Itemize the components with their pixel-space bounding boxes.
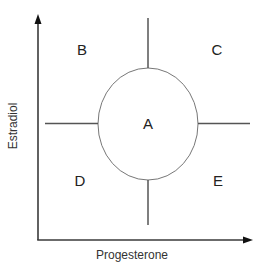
x-axis-label: Progesterone xyxy=(96,248,168,262)
region-label-b: B xyxy=(77,41,87,58)
y-axis-label: Estradiol xyxy=(6,103,20,150)
x-axis-arrowhead-icon xyxy=(243,237,253,244)
region-label-a: A xyxy=(143,115,153,132)
region-label-e: E xyxy=(213,172,223,189)
y-axis-arrowhead-icon xyxy=(35,14,42,24)
hormone-quadrant-diagram: B C A D E Estradiol Progesterone xyxy=(0,0,267,273)
x-axis xyxy=(37,237,253,244)
region-label-c: C xyxy=(212,41,223,58)
y-axis xyxy=(35,14,42,240)
region-label-d: D xyxy=(75,172,86,189)
